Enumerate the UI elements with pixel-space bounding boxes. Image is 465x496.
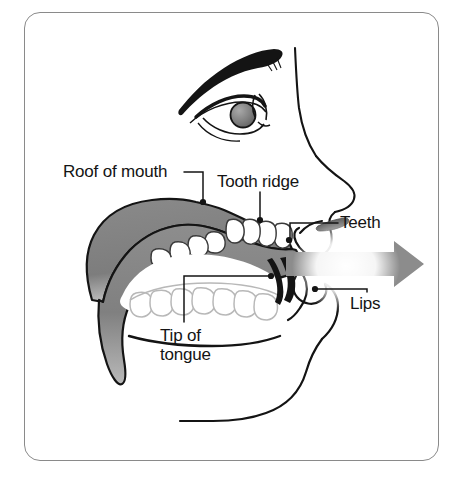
- leader-roof-of-mouth: [184, 172, 203, 200]
- iris-icon: [231, 103, 256, 128]
- eyebrow: [178, 49, 282, 115]
- eye: [190, 94, 270, 141]
- dot-roof-of-mouth: [200, 199, 206, 205]
- dot-tooth-ridge: [257, 217, 263, 223]
- label-tooth-ridge: Tooth ridge: [217, 172, 299, 191]
- label-teeth: Teeth: [340, 213, 381, 232]
- dot-lips: [312, 286, 318, 292]
- label-tip-of-tongue: Tip of tongue: [160, 326, 211, 364]
- dot-teeth: [286, 237, 292, 243]
- mouth-diagram-illustration: [0, 0, 465, 496]
- label-lips: Lips: [350, 294, 380, 313]
- label-roof-of-mouth: Roof of mouth: [63, 162, 167, 181]
- dot-tip-of-tongue: [268, 273, 274, 279]
- figure-canvas: Roof of mouth Tooth ridge Teeth Tip of t…: [0, 0, 465, 496]
